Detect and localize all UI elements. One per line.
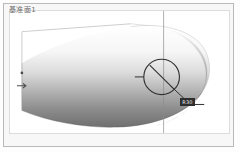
cad-viewport: 基准面1 R30: [0, 0, 240, 152]
dimension-callout-label[interactable]: R30: [180, 98, 195, 106]
datum-plane-caption: 基准面1: [9, 6, 36, 14]
model-svg: [10, 11, 229, 133]
drawing-canvas[interactable]: [9, 10, 230, 134]
solid-body: [22, 25, 210, 127]
model-scene: [10, 11, 229, 133]
